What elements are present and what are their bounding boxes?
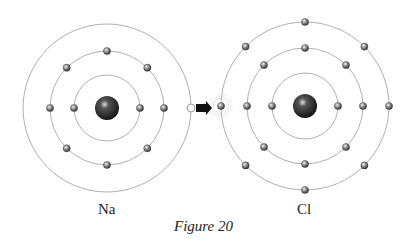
electron-icon [268,102,275,109]
electron-icon [361,43,368,50]
electron-icon [63,64,70,71]
electron-icon [70,104,77,111]
electron-vacancy-icon [187,104,195,112]
electron-icon [301,44,308,51]
electron-icon [103,161,110,168]
electron-icon [385,102,392,109]
electron-icon [361,162,368,169]
electron-icon [63,145,70,152]
chlorine-atom [208,18,393,193]
nucleus-icon [95,96,119,120]
electron-icon [334,102,341,109]
electron-icon [260,61,267,68]
electron-icon [301,186,308,193]
electron-icon [359,102,366,109]
electron-icon [242,162,249,169]
sodium-atom [23,24,195,192]
electron-icon [144,145,151,152]
electron-icon [46,104,53,111]
electron-icon [160,104,167,111]
electron-icon [301,18,308,25]
electron-icon [103,47,110,54]
electron-icon [301,160,308,167]
transfer-arrow-icon [196,101,212,115]
electron-icon [260,143,267,150]
chlorine-label: Cl [297,201,311,218]
electron-icon [342,143,349,150]
electron-transfer-diagram [0,0,410,241]
electron-icon [342,61,349,68]
electron-icon [243,102,250,109]
figure-caption: Figure 20 [174,218,233,235]
electron-icon [217,102,224,109]
sodium-label: Na [98,201,116,218]
electron-icon [144,64,151,71]
electron-icon [136,104,143,111]
electron-icon [242,43,249,50]
nucleus-icon [293,94,317,118]
